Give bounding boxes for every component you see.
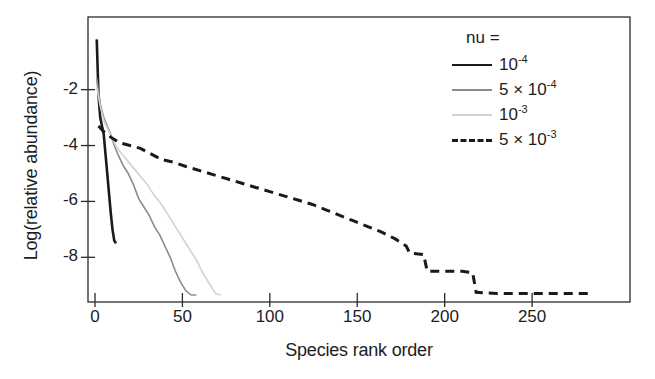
y-tick-label: -6 bbox=[44, 190, 78, 210]
legend-item-label: 5 × 10-4 bbox=[499, 78, 557, 100]
chart-figure: Log(relative abundance) Species rank ord… bbox=[0, 0, 655, 379]
x-tick-label: 150 bbox=[327, 307, 387, 327]
x-tick-label: 250 bbox=[502, 307, 562, 327]
y-tick-label: -4 bbox=[44, 135, 78, 155]
legend-title: nu = bbox=[466, 28, 627, 48]
legend-line-swatch bbox=[452, 58, 492, 70]
legend-item-label: 5 × 10-3 bbox=[499, 128, 557, 150]
y-tick-label: -8 bbox=[44, 246, 78, 266]
x-tick-label: 200 bbox=[415, 307, 475, 327]
legend: nu = 10-45 × 10-410-35 × 10-3 bbox=[452, 28, 627, 151]
legend-item[interactable]: 5 × 10-3 bbox=[452, 126, 627, 151]
legend-item-label: 10-4 bbox=[499, 53, 528, 75]
y-tick-label: -2 bbox=[44, 79, 78, 99]
legend-line-swatch bbox=[452, 133, 492, 145]
legend-item[interactable]: 10-4 bbox=[452, 51, 627, 76]
x-tick-label: 0 bbox=[65, 307, 125, 327]
legend-item[interactable]: 10-3 bbox=[452, 101, 627, 126]
legend-rows: 10-45 × 10-410-35 × 10-3 bbox=[452, 51, 627, 151]
x-tick-label: 50 bbox=[152, 307, 212, 327]
x-tick-label: 100 bbox=[240, 307, 300, 327]
legend-item-label: 10-3 bbox=[499, 103, 528, 125]
legend-line-swatch bbox=[452, 108, 492, 120]
legend-line-swatch bbox=[452, 83, 492, 95]
legend-item[interactable]: 5 × 10-4 bbox=[452, 76, 627, 101]
